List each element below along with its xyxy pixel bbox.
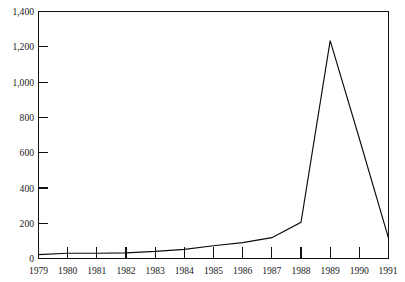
x-axis-label-1988: 1988 <box>291 265 310 276</box>
plot-frame <box>39 12 389 259</box>
y-tick-marks <box>39 12 48 259</box>
x-axis-labels: 1979 1980 1981 1982 1983 1984 1985 1986 … <box>29 265 398 276</box>
x-axis-label-1991: 1990 <box>350 265 369 276</box>
x-axis-label-1981: 1981 <box>87 265 106 276</box>
data-series-line <box>39 41 389 255</box>
x-axis-label-1986: 1986 <box>233 265 252 276</box>
y-axis-label-600: 600 <box>20 147 35 158</box>
x-axis-label-1989: 1989 <box>321 265 340 276</box>
x-axis-label-1984: 1984 <box>175 265 194 276</box>
line-chart-figure: 1,400 1,200 1,000 800 600 400 200 0 1979… <box>0 0 405 282</box>
chart-canvas: 1,400 1,200 1,000 800 600 400 200 0 1979… <box>0 0 405 282</box>
x-axis-label-1987: 1987 <box>262 265 281 276</box>
x-axis-label-1991: 1991 <box>378 265 397 276</box>
x-axis-label-1982: 1982 <box>116 265 135 276</box>
y-axis-label-200: 200 <box>20 218 35 229</box>
axis-frame-rect <box>39 12 389 259</box>
x-axis-label-1980: 1980 <box>58 265 77 276</box>
x-axis-label-1985: 1985 <box>204 265 223 276</box>
y-axis-labels: 1,400 1,200 1,000 800 600 400 200 0 <box>12 6 34 264</box>
y-axis-label-400: 400 <box>20 183 35 194</box>
y-axis-label-1200: 1,200 <box>12 41 34 52</box>
y-axis-label-1400: 1,400 <box>12 6 34 17</box>
y-axis-label-1000: 1,000 <box>12 77 34 88</box>
x-axis-label-1983: 1983 <box>146 265 165 276</box>
x-axis-label-1979: 1979 <box>29 265 48 276</box>
y-axis-label-800: 800 <box>20 112 35 123</box>
y-axis-label-0: 0 <box>29 253 34 264</box>
